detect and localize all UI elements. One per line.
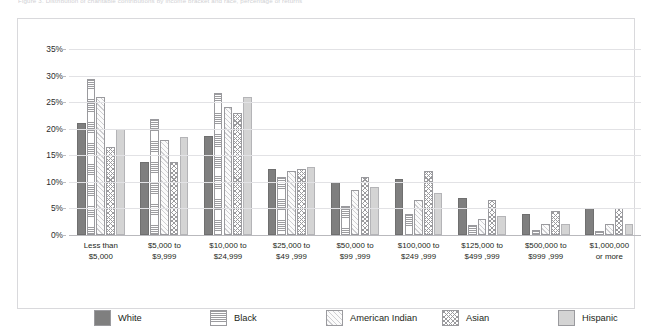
chart-figure: Figure 3. Distribution of charitable con… [0,0,652,330]
figure-caption: Figure 3. Distribution of charitable con… [18,0,638,9]
chart-frame: 35%30%25%20%15%10%5%0% Less than $5,000$… [17,18,635,309]
bar [268,169,277,235]
bar-group [260,49,324,235]
bar [361,177,370,235]
bar [214,93,223,235]
y-axis-tick [60,182,66,183]
bar-group [514,49,578,235]
bar [625,224,634,235]
bar [243,97,252,235]
y-axis-tick [60,208,66,209]
gridline [69,182,641,183]
x-axis-category-label: $25,000 to $49 ,999 [260,241,324,263]
plot-area [69,49,641,235]
gridline [69,235,641,236]
bar [615,208,624,235]
x-axis-labels: Less than $5,000$5,000 to $9,999$10,000 … [69,241,641,263]
legend-swatch-icon [326,310,343,326]
gridline [69,155,641,156]
y-axis-tick [60,129,66,130]
chart-legend: WhiteBlackAmerican IndianAsianHispanic [36,306,652,330]
bar-group [387,49,451,235]
bar [370,187,379,235]
bar [150,119,159,235]
x-axis-category-label: $5,000 to $9,999 [133,241,197,263]
bar-group [133,49,197,235]
bar [458,198,467,235]
bar [488,200,497,235]
bar [497,216,506,235]
bar [170,162,179,235]
bar [224,107,233,235]
bar [585,208,594,235]
legend-label: White [118,313,142,323]
legend-swatch-icon [558,310,575,326]
x-axis-category-label: $100,000 to $249 ,999 [387,241,451,263]
gridline [69,76,641,77]
bar [341,206,350,235]
y-axis-tick [60,76,66,77]
bar [468,225,477,235]
bar [297,169,306,235]
y-axis-labels: 35%30%25%20%15%10%5%0% [36,49,63,235]
bar [522,214,531,235]
bar [233,113,242,235]
x-axis-category-label: $50,000 to $99 ,999 [323,241,387,263]
y-axis-tick [60,102,66,103]
legend-item[interactable]: Hispanic [536,310,652,326]
y-axis-tick [60,49,66,50]
bar [478,219,487,235]
legend-item[interactable]: White [36,310,188,326]
legend-item[interactable]: Asian [420,310,536,326]
bar [287,171,296,235]
bar [395,179,404,235]
gridline [69,102,641,103]
bar [140,162,149,235]
bar [106,147,115,235]
bar [551,211,560,235]
legend-swatch-icon [442,310,459,326]
gridline [69,208,641,209]
legend-label: American Indian [350,313,417,323]
bar [180,137,189,235]
bar-group [578,49,642,235]
legend-label: Black [234,313,257,323]
y-axis-tick [60,235,66,236]
bar [605,224,614,235]
legend-label: Asian [466,313,489,323]
bar-group [69,49,133,235]
bar [561,224,570,235]
x-axis-category-label: $10,000 to $24,999 [196,241,260,263]
x-axis-category-label: $1,000,000 or more [578,241,642,263]
x-axis-category-label: $125,000 to $499 ,999 [450,241,514,263]
bar [277,177,286,235]
legend-label: Hispanic [582,313,618,323]
bar [424,171,433,235]
bar-group [450,49,514,235]
legend-item[interactable]: Black [188,310,304,326]
gridline [69,49,641,50]
legend-swatch-icon [94,310,111,326]
bar [96,97,105,235]
bar [414,200,423,235]
bar [204,136,213,235]
bar [307,167,316,235]
bar-group [323,49,387,235]
x-axis-category-label: Less than $5,000 [69,241,133,263]
legend-item[interactable]: American Indian [304,310,420,326]
bar [434,193,443,236]
legend-swatch-icon [210,310,227,326]
bar [77,123,86,235]
bar [405,214,414,235]
bar [541,224,550,235]
y-axis-tick [60,155,66,156]
gridline [69,129,641,130]
bar-groups [69,49,641,235]
x-axis-category-label: $500,000 to $999 ,999 [514,241,578,263]
bar [351,190,360,235]
bar-group [196,49,260,235]
